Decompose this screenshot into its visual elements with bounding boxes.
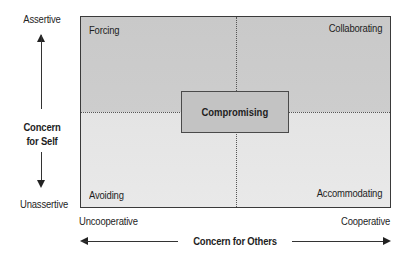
x-axis-right-label: Cooperative [341,215,390,227]
y-axis-title-line2: for Self [16,134,68,148]
quadrant-forcing: Forcing [89,24,119,36]
y-axis-line-lower [41,152,42,183]
x-axis-line-left [82,241,178,242]
y-axis-bottom-label: Unassertive [20,198,68,210]
x-axis-line-right [292,241,386,242]
arrow-right-icon [383,237,391,245]
y-axis-top-label: Assertive [18,13,66,25]
x-axis-left-label: Uncooperative [79,215,138,227]
y-axis-title: Concern for Self [16,120,68,148]
x-axis-title: Concern for Others [188,235,283,247]
quadrant-accommodating: Accommodating [316,187,382,199]
quadrant-collaborating: Collaborating [328,22,382,34]
y-axis-title-line1: Concern [16,120,68,134]
arrow-down-icon [37,180,45,188]
quadrant-compromising: Compromising [202,106,269,118]
compromising-box: Compromising [181,91,289,133]
y-axis-line-upper [41,35,42,109]
quadrant-avoiding: Avoiding [89,189,124,201]
conflict-grid: Forcing Collaborating Avoiding Accommoda… [80,16,391,208]
